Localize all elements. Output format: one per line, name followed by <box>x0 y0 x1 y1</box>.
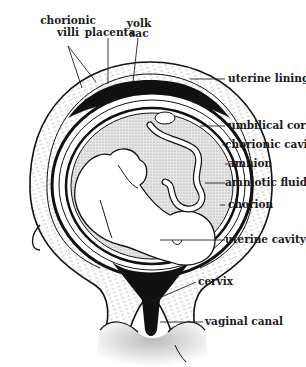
uterus-diagram: chorionic villi placenta yolk sac uterin… <box>0 0 306 367</box>
label-vaginal-canal: vaginal canal <box>204 315 283 327</box>
yolk-sac <box>155 112 175 124</box>
label-umbilical-cord: umbilical cord <box>228 119 306 131</box>
label-chorionic-villi-line1: chorionic <box>40 14 96 26</box>
label-uterine-lining: uterine lining <box>228 72 306 84</box>
diagram-canvas: chorionic villi placenta yolk sac uterin… <box>0 0 306 367</box>
label-amniotic-fluid: amniotic fluid <box>225 176 306 188</box>
label-uterine-cavity: uterine cavity <box>225 233 306 245</box>
label-chorion: chorion <box>228 198 274 210</box>
label-cervix: cervix <box>198 275 234 287</box>
label-chorionic-villi-line2: villi <box>56 26 79 38</box>
label-chorionic-cavity: chorionic cavity <box>225 138 306 150</box>
label-amnion: amnion <box>228 157 273 169</box>
label-yolk-sac-line2: sac <box>129 27 148 39</box>
